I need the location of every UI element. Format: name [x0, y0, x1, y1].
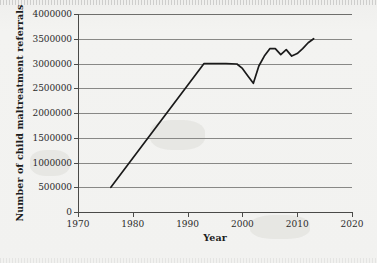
series-line-chart	[78, 14, 352, 212]
x-tick-label: 2020	[341, 220, 364, 229]
y-tick-label: 3500000	[33, 34, 72, 43]
x-tick	[297, 212, 298, 217]
x-tick-label: 2010	[286, 220, 309, 229]
chart-figure: Number of child maltreatment referrals 0…	[0, 0, 377, 263]
x-tick	[352, 212, 353, 217]
y-tick-label: 2500000	[33, 84, 72, 93]
x-tick-label: 1990	[176, 220, 199, 229]
y-tick-label: 3000000	[33, 59, 72, 68]
x-axis-title: Year	[78, 232, 352, 243]
plot-area: 0500000100000015000002000000250000030000…	[78, 14, 352, 212]
y-tick-label: 500000	[38, 183, 72, 192]
y-axis-title: Number of child maltreatment referrals	[12, 14, 26, 212]
y-tick-label: 4000000	[33, 10, 72, 19]
y-tick-label: 2000000	[33, 109, 72, 118]
x-tick-label: 1970	[67, 220, 90, 229]
scan-noise-band-top	[0, 0, 377, 5]
x-tick	[133, 212, 134, 217]
x-tick	[188, 212, 189, 217]
x-axis-line	[78, 212, 352, 213]
scan-noise-band-bottom	[0, 258, 377, 263]
x-tick-label: 2000	[231, 220, 254, 229]
x-tick	[242, 212, 243, 217]
y-tick-label: 1000000	[33, 158, 72, 167]
y-tick-label: 1500000	[33, 133, 72, 142]
x-tick-label: 1980	[121, 220, 144, 229]
y-axis-title-text: Number of child maltreatment referrals	[14, 5, 25, 222]
series-polyline	[111, 39, 314, 188]
y-tick-label: 0	[66, 208, 72, 217]
x-tick	[78, 212, 79, 217]
